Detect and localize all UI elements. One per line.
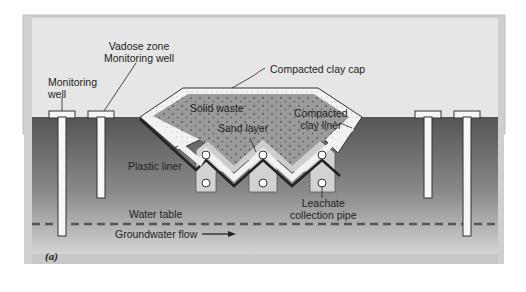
- sand-layer-label: Sand layer: [218, 122, 268, 134]
- monitoring-well-label-line2: well: [48, 88, 97, 100]
- monitoring-well-label: Monitoring well: [48, 76, 97, 100]
- clay-liner-label: Compacted clay liner: [294, 107, 348, 131]
- leachate-pipe-icon: [259, 151, 267, 159]
- panel-tag: (a): [45, 250, 58, 262]
- clay-liner-label-line1: Compacted: [294, 107, 348, 119]
- plastic-liner-label: Plastic liner: [128, 160, 182, 172]
- leachate-pipe-label-line1: Leachate: [290, 197, 357, 209]
- vadose-well-label-line1: Vadose zone: [104, 40, 174, 52]
- vadose-well-label-line2: Monitoring well: [104, 52, 174, 64]
- leachate-pipe-label: Leachate collection pipe: [290, 197, 357, 221]
- leachate-pipe-icon: [318, 151, 326, 159]
- vadose-well-label: Vadose zone Monitoring well: [104, 40, 174, 64]
- groundwater-flow-label: Groundwater flow: [115, 228, 197, 240]
- water-table-label: Water table: [129, 208, 182, 220]
- clay-liner-label-line2: clay liner: [294, 119, 348, 131]
- leachate-pipe-label-line2: collection pipe: [290, 209, 357, 221]
- clay-cap-label: Compacted clay cap: [270, 63, 365, 75]
- solid-waste-label: Solid waste: [190, 102, 244, 114]
- leachate-pipe-icon: [318, 179, 326, 187]
- landfill-diagram: Monitoring well Vadose zone Monitoring w…: [0, 0, 526, 292]
- leachate-pipe-icon: [259, 179, 267, 187]
- leachate-pipe-icon: [202, 151, 210, 159]
- monitoring-well-label-line1: Monitoring: [48, 76, 97, 88]
- leachate-pipe-icon: [202, 179, 210, 187]
- landfill-cross-section: [0, 0, 526, 292]
